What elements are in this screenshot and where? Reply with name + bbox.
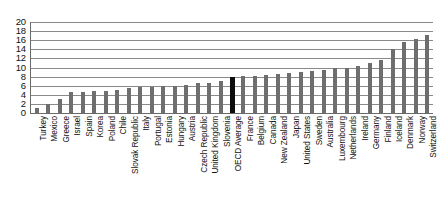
x-tick-label: Turkey (40, 116, 48, 140)
x-tick-label: Slovak Republic (132, 116, 140, 174)
x-tick-label: Sweden (316, 116, 324, 145)
bar (173, 86, 177, 113)
bar (299, 72, 303, 113)
x-tick-label: Korea (97, 116, 105, 138)
plot-area (31, 22, 433, 113)
bar (241, 76, 245, 113)
x-tick-label: Portugal (155, 116, 163, 146)
x-tick-label: Ireland (362, 116, 370, 141)
x-tick-label: Israel (74, 116, 82, 136)
x-tick-label: Slovenia (224, 116, 232, 147)
bar (81, 92, 85, 113)
x-tick-label: Belgium (258, 116, 266, 145)
x-tick-label: Mexico (51, 116, 59, 142)
x-tick-label: OECD Average (235, 116, 243, 171)
bar (150, 87, 154, 113)
bar (425, 35, 429, 113)
bar (414, 39, 418, 113)
bar (379, 60, 383, 113)
bar-chart-figure: 20181614121086420 TurkeyMexicoGreeceIsra… (0, 0, 439, 199)
x-tick-label: Denmark (407, 116, 415, 149)
x-axis-category-labels: TurkeyMexicoGreeceIsraelSpainKoreaPoland… (31, 116, 433, 199)
bar (391, 49, 395, 113)
x-tick-label: Germany (373, 116, 381, 149)
x-tick-label: Chile (120, 116, 128, 134)
x-tick-label: Switzerland (430, 116, 438, 158)
bar (196, 83, 200, 113)
y-tick-label: 0 (21, 108, 26, 118)
bar (219, 81, 223, 113)
x-tick-label: Czech Republic (201, 116, 209, 173)
bar (356, 66, 360, 113)
x-tick-label: Luxembourg (339, 116, 347, 161)
bar (333, 68, 337, 113)
x-tick-label: Netherlands (350, 116, 358, 160)
x-tick-label: Poland (109, 116, 117, 141)
x-tick-label: Japan (293, 116, 301, 138)
bar (92, 91, 96, 113)
x-tick-label: Hungary (178, 116, 186, 147)
x-tick-label: Norway (419, 116, 427, 143)
bar (161, 86, 165, 113)
x-tick-label: New Zealand (281, 116, 289, 164)
bar (184, 85, 188, 113)
bar (322, 70, 326, 113)
bar (127, 88, 131, 113)
bar (287, 73, 291, 113)
bar (69, 92, 73, 113)
bar (264, 75, 268, 113)
y-axis: 20181614121086420 (0, 22, 29, 113)
bar (58, 99, 62, 113)
x-tick-label: Estonia (166, 116, 174, 143)
x-tick-label: United States (304, 116, 312, 165)
x-tick-label: Austria (189, 116, 197, 141)
bar (276, 74, 280, 113)
x-tick-label: France (247, 116, 255, 141)
bar (310, 71, 314, 113)
bar (138, 87, 142, 113)
bar-highlight (230, 77, 235, 113)
x-tick-label: Australia (327, 116, 335, 147)
x-tick-label: Spain (86, 116, 94, 137)
bar (402, 42, 406, 113)
x-tick-label: Greece (63, 116, 71, 143)
bar (207, 83, 211, 113)
bar (35, 108, 39, 113)
bar (104, 91, 108, 113)
bar (345, 68, 349, 114)
x-tick-label: Italy (143, 116, 151, 131)
x-tick-label: United Kingdom (212, 116, 220, 174)
bar (115, 90, 119, 113)
x-tick-label: Canada (270, 116, 278, 144)
bars-layer (31, 22, 433, 113)
x-tick-label: Iceland (396, 116, 404, 142)
bar (46, 104, 50, 113)
x-tick-label: Finland (385, 116, 393, 143)
axis-baseline (31, 113, 433, 114)
bar (368, 63, 372, 113)
bar (253, 76, 257, 113)
